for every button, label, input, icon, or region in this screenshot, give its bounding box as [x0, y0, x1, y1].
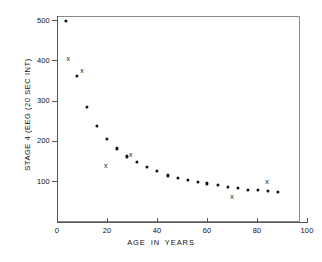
y-axis-title: STAGE 4 (EEG (20 SEC INT) [23, 12, 32, 218]
y-axis-tick [52, 181, 57, 182]
x-axis-tick-label: 80 [253, 226, 262, 235]
data-point-x-marker: x [104, 161, 108, 168]
x-axis-tick-label: 100 [300, 226, 313, 235]
data-point-x-marker: x [129, 150, 133, 157]
data-point-x-marker: x [80, 67, 84, 74]
x-axis-tick [107, 218, 108, 223]
x-axis-tick-label: 20 [103, 226, 112, 235]
x-axis-tick-label: 60 [203, 226, 212, 235]
y-axis-tick [52, 60, 57, 61]
x-axis-tick-label: 0 [55, 226, 59, 235]
data-point-x-marker: x [67, 55, 71, 62]
x-axis-tick [57, 218, 58, 223]
x-axis-tick [307, 218, 308, 223]
plot-area-frame [57, 16, 300, 222]
y-axis-tick [52, 101, 57, 102]
data-point-x-marker: x [230, 192, 234, 199]
scatter-chart-figure: 100200300400500 020406080100 xxxxxx STAG… [0, 0, 322, 262]
x-axis-tick [207, 218, 208, 223]
x-axis-tick-label: 40 [153, 226, 162, 235]
x-axis-tick [157, 218, 158, 223]
x-axis-tick [257, 218, 258, 223]
data-point-x-marker: x [265, 177, 269, 184]
x-axis-title: AGE IN YEARS [0, 238, 322, 247]
y-axis-tick [52, 20, 57, 21]
y-axis-line [57, 16, 58, 223]
x-axis-line [57, 222, 308, 223]
y-axis-tick [52, 141, 57, 142]
